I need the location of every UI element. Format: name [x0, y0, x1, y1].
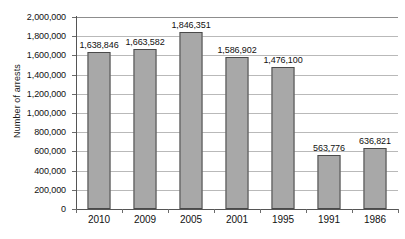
x-axis-tick-mark: [352, 209, 353, 213]
x-axis-tick-label: 1986: [352, 214, 398, 225]
bar[interactable]: [318, 155, 341, 209]
y-axis-tick-label: 200,000: [34, 185, 66, 195]
x-axis-tick-labels: 2010200920052001199519911986: [76, 212, 398, 236]
x-axis-tick-label: 2009: [122, 214, 168, 225]
y-axis-tick-label: 800,000: [34, 127, 66, 137]
x-axis-tick-label: 2001: [214, 214, 260, 225]
bar-value-label: 1,846,351: [171, 20, 210, 30]
x-axis-tick-label: 1991: [306, 214, 352, 225]
y-axis-tick-label: 1,800,000: [27, 31, 66, 41]
x-axis-tick-label: 1995: [260, 214, 306, 225]
x-axis-tick-mark: [122, 209, 123, 213]
bar[interactable]: [134, 49, 157, 209]
bar-chart: Number of arrests 0200,000400,000600,000…: [0, 0, 405, 239]
y-axis-tick-labels: 0200,000400,000600,000800,0001,000,0001,…: [0, 0, 74, 239]
bar-slot: 1,586,902: [214, 17, 260, 209]
bar[interactable]: [272, 67, 295, 209]
x-axis-tick-mark: [306, 209, 307, 213]
x-axis-tick-label: 2005: [168, 214, 214, 225]
bar[interactable]: [180, 32, 203, 209]
bar-slot: 563,776: [306, 17, 352, 209]
bar-value-label: 563,776: [313, 143, 345, 153]
x-axis-tick-mark: [398, 209, 399, 213]
bar-slot: 1,638,846: [76, 17, 122, 209]
bar-value-label: 1,586,902: [217, 45, 256, 55]
y-axis-tick-label: 0: [61, 204, 66, 214]
x-axis-tick-label: 2010: [76, 214, 122, 225]
x-axis-tick-mark: [260, 209, 261, 213]
bar-slot: 636,821: [352, 17, 398, 209]
x-axis-tick-mark: [214, 209, 215, 213]
bar[interactable]: [364, 148, 387, 209]
bar-value-label: 1,663,582: [125, 37, 164, 47]
bar[interactable]: [88, 52, 111, 209]
y-axis-tick-label: 1,000,000: [27, 108, 66, 118]
bar-slot: 1,476,100: [260, 17, 306, 209]
bar-value-label: 1,476,100: [263, 55, 302, 65]
x-axis-line: [76, 209, 399, 210]
bar-value-label: 636,821: [359, 136, 391, 146]
y-axis-tick-label: 1,200,000: [27, 89, 66, 99]
bar-value-label: 1,638,846: [79, 40, 118, 50]
y-axis-tick-label: 1,400,000: [27, 70, 66, 80]
x-axis-tick-mark: [168, 209, 169, 213]
y-axis-tick-label: 400,000: [34, 166, 66, 176]
y-axis-tick-label: 1,600,000: [27, 50, 66, 60]
bar-series: 1,638,8461,663,5821,846,3511,586,9021,47…: [76, 17, 398, 209]
x-axis-tick-mark: [76, 209, 77, 213]
bar-slot: 1,663,582: [122, 17, 168, 209]
y-axis-tick-label: 2,000,000: [27, 12, 66, 22]
bar[interactable]: [226, 57, 249, 209]
y-axis-tick-label: 600,000: [34, 146, 66, 156]
bar-slot: 1,846,351: [168, 17, 214, 209]
